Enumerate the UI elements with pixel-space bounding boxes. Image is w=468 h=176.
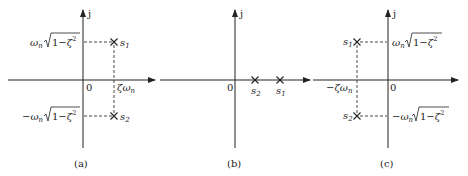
svg-text:s1: s1: [276, 85, 286, 98]
pole-s1-a: s1: [111, 37, 130, 50]
lower-label-a: −ωn 1−ζ2: [22, 107, 80, 124]
svg-text:s1: s1: [120, 37, 130, 50]
pole-s2-c: s2: [343, 110, 361, 123]
imag-axis-label-a: j: [87, 8, 91, 19]
svg-text:ωn: ωn: [30, 37, 43, 50]
caption-c: (c): [380, 158, 394, 169]
svg-text:1−ζ2: 1−ζ2: [413, 35, 437, 48]
lower-label-c: −ωn 1−ζ2: [392, 107, 449, 124]
origin-label-c: 0: [390, 82, 396, 93]
svg-text:s2: s2: [120, 111, 130, 124]
svg-text:1−ζ2: 1−ζ2: [52, 109, 76, 122]
svg-text:ωn: ωn: [392, 37, 405, 50]
pole-zero-diagrams: j 0 s1 s2 ζωn ωn 1−ζ2 −ωn 1−ζ2: [0, 0, 468, 176]
panel-a: j 0 s1 s2 ζωn ωn 1−ζ2 −ωn 1−ζ2: [8, 8, 155, 169]
origin-label-a: 0: [86, 82, 92, 93]
upper-label-a: ωn 1−ζ2: [30, 33, 80, 50]
origin-label-b: 0: [227, 82, 233, 93]
imag-axis-label-b: j: [239, 8, 243, 19]
pole-s2-a: s2: [111, 111, 131, 124]
real-label-a: ζωn: [117, 82, 136, 95]
caption-b: (b): [227, 158, 241, 169]
panel-c: j 0 s1 s2 −ζωn ωn 1−ζ2 −ωn 1−ζ2 (c): [313, 8, 458, 169]
caption-a: (a): [74, 158, 88, 169]
svg-text:s1: s1: [343, 36, 353, 49]
svg-text:1−ζ2: 1−ζ2: [420, 109, 444, 122]
svg-text:1−ζ2: 1−ζ2: [52, 35, 76, 48]
svg-text:s2: s2: [251, 85, 261, 98]
imag-axis-label-c: j: [392, 8, 396, 19]
svg-text:−ωn: −ωn: [392, 111, 414, 124]
svg-text:s2: s2: [343, 110, 353, 123]
real-label-c: −ζωn: [326, 82, 353, 95]
svg-text:−ωn: −ωn: [22, 111, 44, 124]
pole-s1-c: s1: [343, 36, 361, 49]
panel-b: j 0 s2 s1 (b): [160, 8, 310, 169]
upper-label-c: ωn 1−ζ2: [392, 33, 442, 50]
